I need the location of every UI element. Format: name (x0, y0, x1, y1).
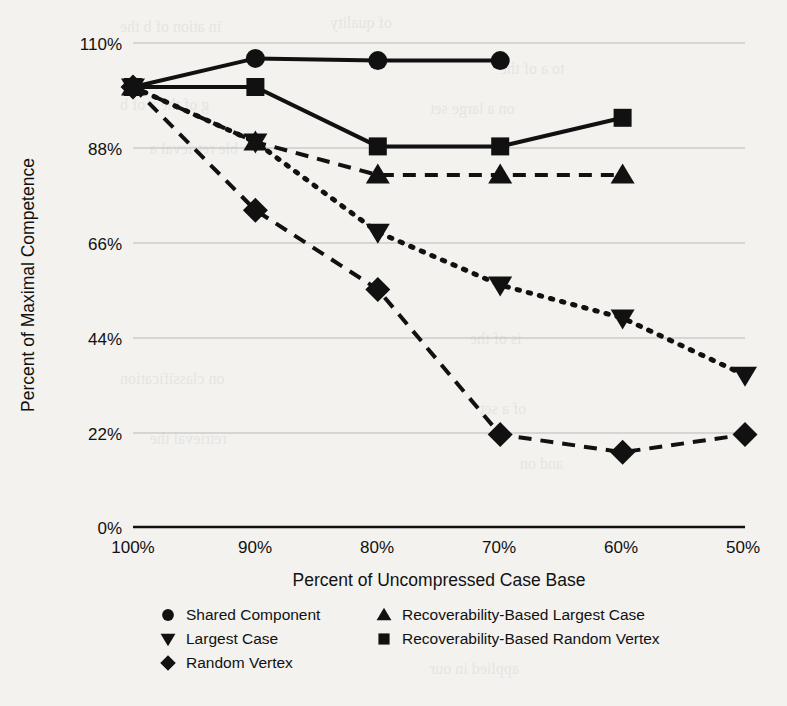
y-tick-label-110: 110% (80, 35, 122, 54)
triangle-up-marker (377, 608, 392, 620)
legend-label: Recoverability-Based Largest Case (402, 606, 645, 623)
x-tick-label-60: 60% (604, 538, 638, 557)
x-tick-labels: 100% 90% 80% 70% 60% 50% (111, 538, 760, 557)
legend-marker (378, 633, 389, 644)
x-tick-label-90: 90% (238, 538, 272, 557)
chart-container: 110% 88% 66% 44% 22% 0% 100% 90% 80% 70%… (0, 0, 787, 706)
square-marker (378, 633, 389, 644)
diamond-marker (160, 655, 176, 671)
triangle-up-marker (611, 164, 635, 184)
legend-item-recoverability-based-random-vertex[interactable]: Recoverability-Based Random Vertex (378, 630, 659, 647)
series-line (133, 87, 745, 452)
legend-label: Recoverability-Based Random Vertex (402, 630, 660, 647)
diamond-marker (610, 440, 635, 465)
chart-legend: Shared ComponentLargest CaseRandom Verte… (160, 606, 660, 671)
square-marker (124, 78, 142, 96)
circle-marker (368, 51, 387, 70)
y-tick-label-66: 66% (88, 235, 122, 254)
legend-item-shared-component[interactable]: Shared Component (162, 606, 321, 623)
circle-marker (162, 609, 174, 621)
y-tick-label-0: 0% (97, 519, 122, 538)
legend-marker (161, 634, 176, 646)
circle-marker (246, 49, 265, 68)
triangle-down-marker (366, 224, 390, 244)
legend-marker (377, 608, 392, 620)
legend-item-random-vertex[interactable]: Random Vertex (160, 654, 293, 671)
y-tick-label-44: 44% (88, 330, 122, 349)
series-shared-component (124, 49, 510, 97)
square-marker (614, 109, 632, 127)
legend-label: Largest Case (186, 630, 278, 647)
series-recoverability-based-largest-case (121, 76, 635, 184)
diamond-marker (733, 422, 758, 447)
legend-label: Shared Component (186, 606, 321, 623)
square-marker (246, 78, 264, 96)
series-line (133, 87, 623, 175)
series-line (133, 87, 745, 375)
triangle-down-marker (161, 634, 176, 646)
gridlines (133, 43, 745, 433)
y-tick-label-88: 88% (88, 140, 122, 159)
diamond-marker (488, 422, 513, 447)
series-line (133, 58, 500, 87)
series-random-vertex (121, 75, 758, 465)
circle-marker (491, 51, 510, 70)
competence-line-chart: 110% 88% 66% 44% 22% 0% 100% 90% 80% 70%… (0, 0, 787, 706)
x-axis-title: Percent of Uncompressed Case Base (293, 570, 586, 590)
x-tick-label-80: 80% (360, 538, 394, 557)
legend-marker (162, 609, 174, 621)
y-axis-title: Percent of Maximal Competence (18, 158, 38, 412)
x-tick-label-50: 50% (726, 538, 760, 557)
series-layer (121, 49, 758, 465)
y-tick-label-22: 22% (88, 425, 122, 444)
legend-marker (160, 655, 176, 671)
square-marker (369, 137, 387, 155)
legend-label: Random Vertex (186, 654, 293, 671)
triangle-down-marker (733, 367, 757, 387)
legend-item-largest-case[interactable]: Largest Case (161, 630, 279, 647)
x-tick-label-100: 100% (111, 538, 154, 557)
x-tick-label-70: 70% (482, 538, 516, 557)
y-tick-labels: 110% 88% 66% 44% 22% 0% (80, 35, 122, 538)
square-marker (491, 137, 509, 155)
legend-item-recoverability-based-largest-case[interactable]: Recoverability-Based Largest Case (377, 606, 645, 623)
